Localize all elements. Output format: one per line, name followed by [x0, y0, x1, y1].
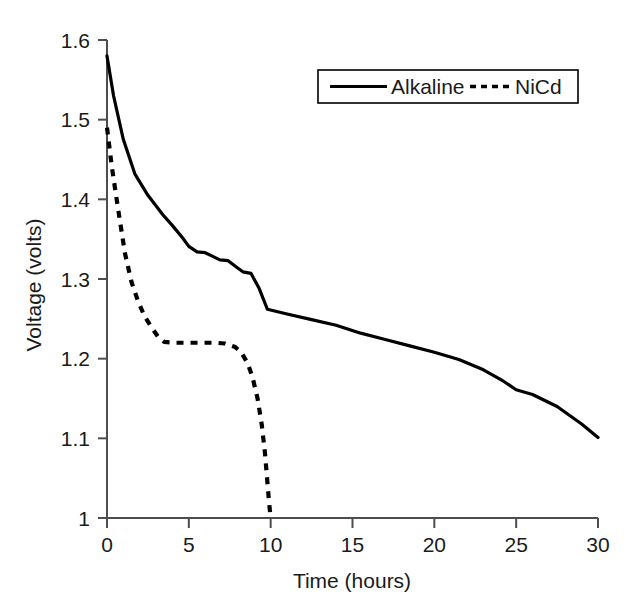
- legend-label-nicd: NiCd: [515, 75, 562, 98]
- y-ticklabel-1.5: 1.5: [61, 108, 90, 131]
- y-ticklabel-1.4: 1.4: [61, 188, 91, 211]
- x-axis-title: Time (hours): [293, 569, 411, 592]
- x-ticklabel-10: 10: [259, 533, 282, 556]
- y-ticklabel-1: 1: [78, 507, 90, 530]
- y-ticklabel-1.1: 1.1: [61, 427, 90, 450]
- y-ticklabel-1.2: 1.2: [61, 347, 90, 370]
- x-ticklabel-25: 25: [504, 533, 527, 556]
- chart-legend: Alkaline NiCd: [318, 70, 578, 103]
- battery-discharge-line-chart: 11.11.21.31.41.51.6 051015202530 Time (h…: [0, 0, 635, 610]
- x-ticklabel-5: 5: [183, 533, 195, 556]
- y-ticklabel-1.3: 1.3: [61, 268, 90, 291]
- chart-figure: 11.11.21.31.41.51.6 051015202530 Time (h…: [0, 0, 635, 610]
- x-ticklabel-20: 20: [423, 533, 446, 556]
- x-ticklabel-0: 0: [101, 533, 113, 556]
- x-ticklabel-30: 30: [586, 533, 609, 556]
- x-ticklabel-15: 15: [341, 533, 364, 556]
- y-ticklabel-1.6: 1.6: [61, 29, 90, 52]
- legend-label-alkaline: Alkaline: [391, 75, 465, 98]
- y-axis-title: Voltage (volts): [22, 218, 45, 351]
